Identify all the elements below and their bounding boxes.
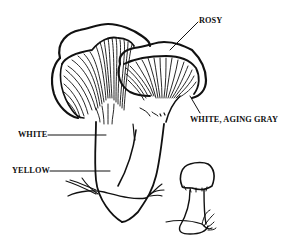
side-mushroom-cap bbox=[118, 42, 206, 98]
label-white: WHITE bbox=[18, 129, 47, 139]
large-mushroom-stalk bbox=[66, 122, 164, 222]
button-mushroom bbox=[166, 163, 216, 235]
mushroom-diagram: ROSY WHITE, AGING GRAY WHITE YELLOW bbox=[0, 0, 292, 246]
side-mushroom-stalk bbox=[140, 96, 180, 122]
label-white-aging-gray: WHITE, AGING GRAY bbox=[190, 114, 278, 124]
label-yellow: YELLOW bbox=[12, 165, 50, 175]
label-rosy: ROSY bbox=[199, 15, 222, 25]
large-mushroom-gills bbox=[64, 38, 132, 124]
leader-white-aging-gray bbox=[190, 96, 200, 113]
